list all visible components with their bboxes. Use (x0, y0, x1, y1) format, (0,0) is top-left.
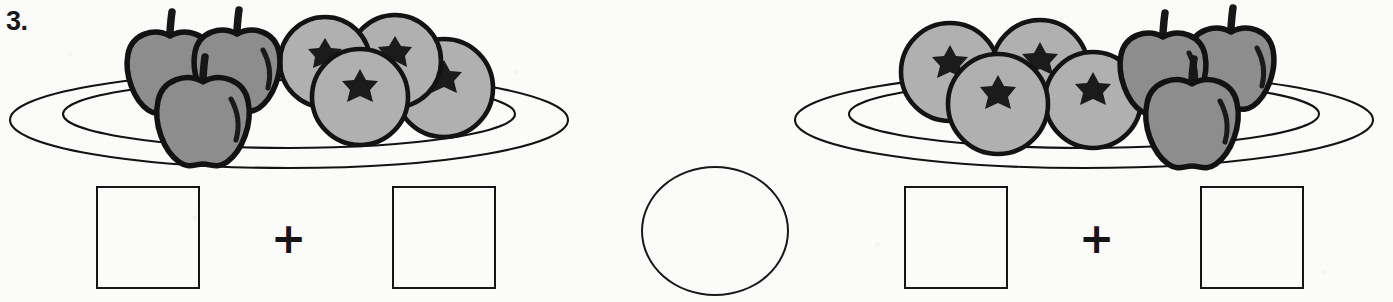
left-answer-box-a[interactable] (96, 186, 200, 289)
comparison-circle[interactable] (641, 166, 789, 296)
problem-number: 3. (6, 8, 28, 35)
worksheet-page: 3. (0, 0, 1393, 302)
right-answer-box-a[interactable] (904, 186, 1008, 289)
orange-3 (948, 54, 1048, 154)
left-answer-box-b[interactable] (392, 186, 496, 289)
left-plate-group: + (0, 0, 600, 302)
left-plus-icon: + (271, 222, 305, 256)
left-plate-fruit (0, 0, 600, 185)
right-plus-icon: + (1079, 222, 1113, 256)
right-plate-fruit (786, 0, 1393, 185)
right-plate-group: + (786, 0, 1393, 302)
left-plate-wrap (0, 0, 600, 185)
right-plate-wrap (786, 0, 1393, 185)
right-answer-box-b[interactable] (1200, 186, 1304, 289)
right-answer-row: + (904, 184, 1324, 294)
left-answer-row: + (96, 184, 516, 294)
orange-4 (312, 49, 408, 145)
